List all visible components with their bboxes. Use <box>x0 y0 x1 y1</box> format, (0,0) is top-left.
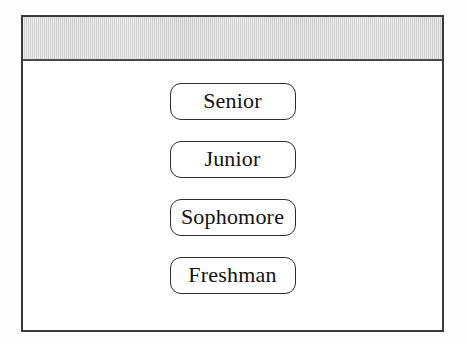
window-title-bar[interactable] <box>23 17 442 61</box>
grade-button-label: Freshman <box>188 264 276 286</box>
window-content-area: Senior Junior Sophomore Freshman <box>23 61 442 330</box>
application-window: Senior Junior Sophomore Freshman <box>21 15 444 332</box>
grade-button-label: Senior <box>203 90 262 112</box>
grade-button-sophomore[interactable]: Sophomore <box>170 199 296 236</box>
grade-level-button-list: Senior Junior Sophomore Freshman <box>170 83 296 294</box>
grade-button-label: Sophomore <box>181 206 284 228</box>
grade-button-label: Junior <box>204 148 260 170</box>
grade-button-senior[interactable]: Senior <box>170 83 296 120</box>
grade-button-junior[interactable]: Junior <box>170 141 296 178</box>
grade-button-freshman[interactable]: Freshman <box>170 257 296 294</box>
